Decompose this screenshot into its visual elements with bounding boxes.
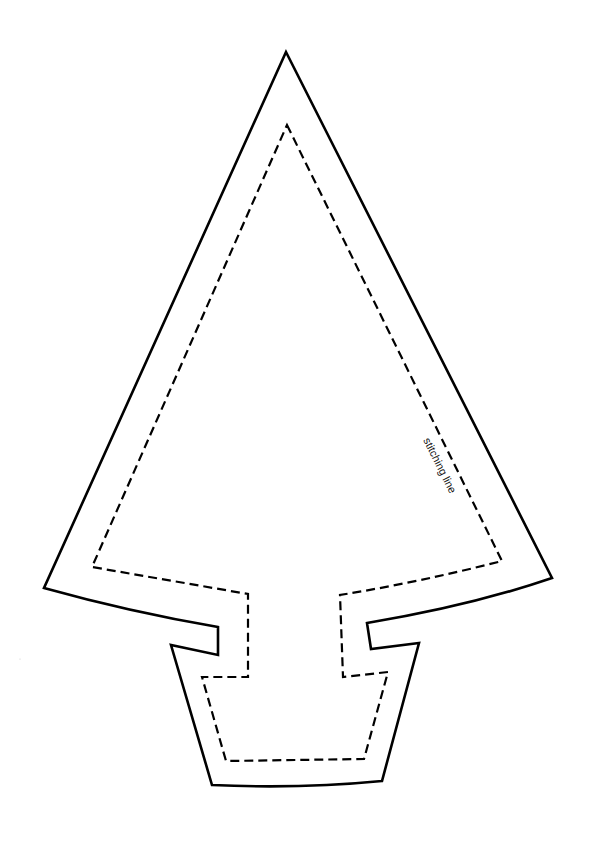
paper-speck (19, 658, 20, 659)
pattern-canvas: stitching line (0, 0, 592, 841)
page-background (0, 0, 592, 841)
